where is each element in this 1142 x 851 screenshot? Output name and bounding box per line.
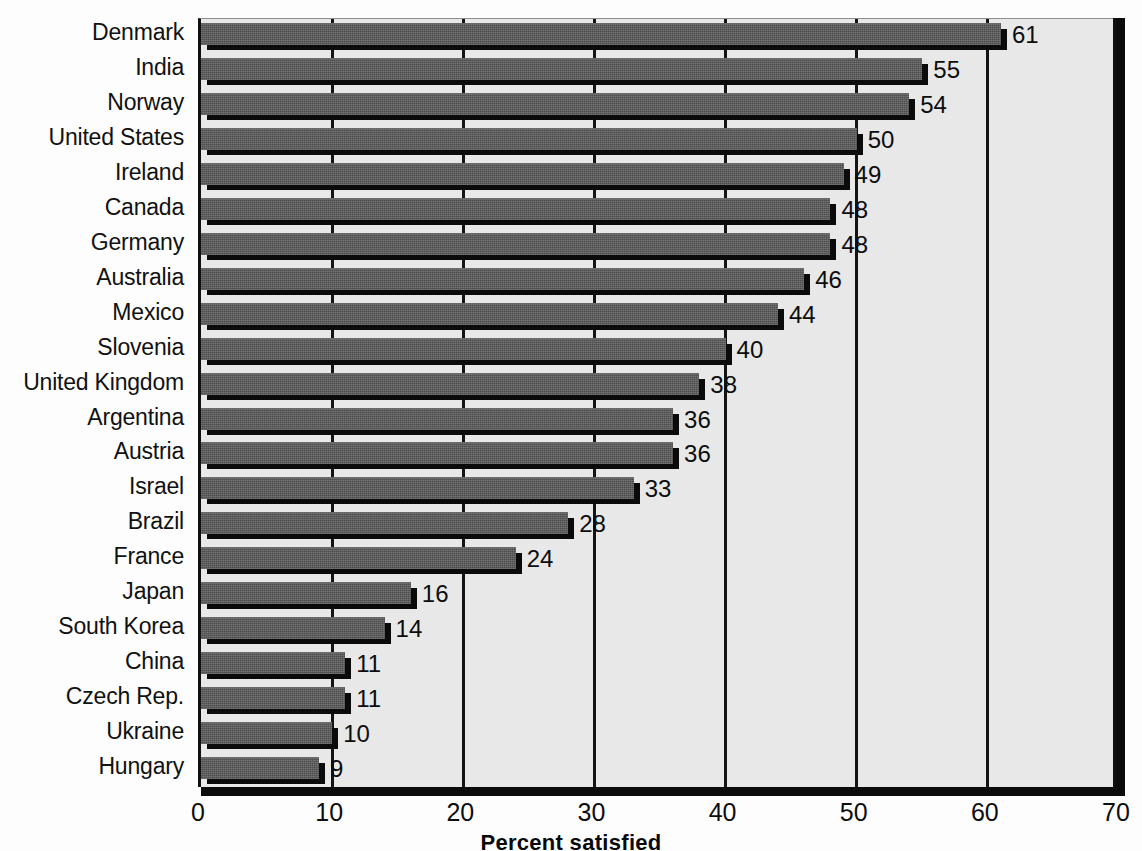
category-label-slovenia: Slovenia — [97, 336, 184, 359]
plot-frame-shadow-bottom — [201, 787, 1125, 796]
bar-value-label: 44 — [789, 303, 816, 327]
bar-row — [201, 194, 1119, 229]
category-label-mexico: Mexico — [112, 301, 184, 324]
x-tick-label-30: 30 — [578, 800, 606, 825]
category-label-france: France — [114, 545, 184, 568]
bar[interactable] — [201, 652, 345, 674]
bar-row — [201, 543, 1119, 578]
bar-row — [201, 683, 1119, 718]
category-label-israel: Israel — [129, 475, 184, 498]
category-label-hungary: Hungary — [98, 755, 184, 778]
bar-row — [201, 334, 1119, 369]
bar-value-label: 48 — [841, 233, 868, 257]
bar-value-label: 48 — [841, 198, 868, 222]
bar[interactable] — [201, 233, 830, 255]
bar-value-label: 28 — [579, 512, 606, 536]
bar-value-label: 46 — [815, 268, 842, 292]
x-tick-label-20: 20 — [446, 800, 474, 825]
bar[interactable] — [201, 23, 1001, 45]
x-tick-label-40: 40 — [709, 800, 737, 825]
bar[interactable] — [201, 442, 673, 464]
bar[interactable] — [201, 198, 830, 220]
category-label-czech-rep: Czech Rep. — [66, 685, 184, 708]
category-label-ireland: Ireland — [115, 161, 184, 184]
category-label-canada: Canada — [105, 196, 184, 219]
bar-row — [201, 19, 1119, 54]
category-label-denmark: Denmark — [92, 21, 184, 44]
bar[interactable] — [201, 582, 411, 604]
bar-value-label: 10 — [343, 722, 370, 746]
bar-row — [201, 159, 1119, 194]
bar-value-label: 14 — [396, 617, 423, 641]
bar[interactable] — [201, 373, 699, 395]
bar[interactable] — [201, 303, 778, 325]
bar[interactable] — [201, 163, 844, 185]
bar-value-label: 16 — [422, 582, 449, 606]
bar-row — [201, 438, 1119, 473]
category-label-argentina: Argentina — [87, 406, 184, 429]
category-label-india: India — [135, 56, 184, 79]
x-tick-label-50: 50 — [840, 800, 868, 825]
bar-row — [201, 89, 1119, 124]
bar-row — [201, 404, 1119, 439]
bar[interactable] — [201, 617, 385, 639]
bar[interactable] — [201, 547, 516, 569]
bar-value-label: 11 — [356, 652, 381, 676]
category-label-brazil: Brazil — [128, 510, 184, 533]
bar-row — [201, 299, 1119, 334]
bar[interactable] — [201, 58, 922, 80]
bar-row — [201, 369, 1119, 404]
bar-value-label: 9 — [330, 757, 343, 781]
bar-value-label: 55 — [933, 58, 960, 82]
bar-value-label: 24 — [527, 547, 554, 571]
bar[interactable] — [201, 512, 568, 534]
bar-value-label: 61 — [1012, 23, 1039, 47]
bar-row — [201, 229, 1119, 264]
bar[interactable] — [201, 477, 634, 499]
x-axis-title: Percent satisfied — [0, 830, 1142, 851]
bar-value-label: 36 — [684, 408, 711, 432]
category-label-ukraine: Ukraine — [106, 720, 184, 743]
category-label-south-korea: South Korea — [58, 615, 184, 638]
category-label-japan: Japan — [122, 580, 184, 603]
bar-value-label: 50 — [868, 128, 895, 152]
bar-value-label: 36 — [684, 442, 711, 466]
category-label-united-states: United States — [49, 126, 184, 149]
category-label-austria: Austria — [114, 440, 184, 463]
bar-value-label: 33 — [645, 477, 672, 501]
x-tick-label-10: 10 — [315, 800, 343, 825]
bar-row — [201, 124, 1119, 159]
x-tick-label-60: 60 — [971, 800, 999, 825]
bar[interactable] — [201, 408, 673, 430]
category-label-norway: Norway — [107, 91, 184, 114]
bar[interactable] — [201, 268, 804, 290]
bar-chart: DenmarkIndiaNorwayUnited StatesIrelandCa… — [0, 0, 1142, 851]
bar-row — [201, 264, 1119, 299]
bar-row — [201, 578, 1119, 613]
bar[interactable] — [201, 128, 857, 150]
category-label-australia: Australia — [96, 266, 184, 289]
category-label-germany: Germany — [91, 231, 184, 254]
bar-value-label: 11 — [356, 687, 381, 711]
bar-value-label: 54 — [920, 93, 947, 117]
category-label-united-kingdom: United Kingdom — [23, 371, 184, 394]
x-tick-label-70: 70 — [1102, 800, 1130, 825]
bar[interactable] — [201, 687, 345, 709]
bar-row — [201, 613, 1119, 648]
category-label-column: DenmarkIndiaNorwayUnited StatesIrelandCa… — [0, 18, 192, 787]
bar[interactable] — [201, 338, 726, 360]
bar-row — [201, 648, 1119, 683]
bar-row — [201, 718, 1119, 753]
bar-row — [201, 508, 1119, 543]
bar-value-label: 38 — [710, 373, 737, 397]
plot-frame-shadow-right — [1116, 18, 1125, 796]
bar[interactable] — [201, 757, 319, 779]
x-tick-label-0: 0 — [191, 800, 205, 825]
bar-row — [201, 54, 1119, 89]
bar[interactable] — [201, 722, 332, 744]
category-label-china: China — [125, 650, 184, 673]
plot-area: 6155545049484846444038363633282416141111… — [198, 18, 1116, 787]
bar-value-label: 40 — [737, 338, 764, 362]
bar[interactable] — [201, 93, 909, 115]
bar-value-label: 49 — [855, 163, 882, 187]
